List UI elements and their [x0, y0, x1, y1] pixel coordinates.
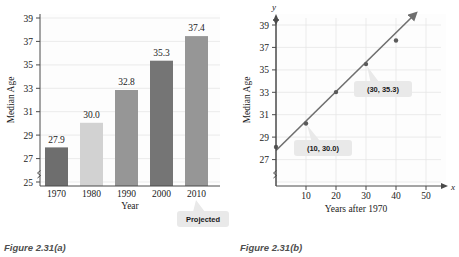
y-tick-label: 37 — [260, 43, 270, 53]
x-ticks — [306, 186, 426, 190]
x-axis-title: Years after 1970 — [325, 204, 388, 214]
y-tick-label: 39 — [260, 21, 270, 31]
bar-value-label: 35.3 — [153, 48, 170, 58]
figure-b-caption: Figure 2.31(b) — [240, 242, 302, 253]
bar-value-label: 32.8 — [118, 77, 135, 87]
bar-value-label: 27.9 — [48, 135, 65, 145]
x-axis-title: Year — [121, 201, 139, 211]
y-axis-title: Median Age — [6, 77, 16, 124]
scatter-chart-svg: y x 39 37 35 33 31 29 27 10 20 30 — [236, 0, 459, 232]
bar-value-label: 30.0 — [83, 110, 100, 120]
projected-callout: Projected — [177, 200, 229, 227]
bar-chart-svg: 27.9 30.0 32.8 35.3 37.4 39 37 35 33 31 … — [0, 0, 236, 232]
data-point — [364, 62, 368, 66]
bar-2010 — [185, 36, 208, 186]
y-tick-label: 27 — [24, 154, 34, 164]
x-tick-label: 2010 — [187, 189, 206, 199]
callout-label: (10, 30.0) — [307, 144, 340, 153]
figure-2-31-b: y x 39 37 35 33 31 29 27 10 20 30 — [236, 0, 459, 232]
y-tick-label: 39 — [24, 14, 34, 24]
bar-2000 — [150, 61, 173, 186]
y-ticks — [36, 18, 40, 182]
x-axis-arrow — [441, 183, 448, 189]
y-tick-label: 29 — [260, 133, 270, 143]
figure-2-31-a: 27.9 30.0 32.8 35.3 37.4 39 37 35 33 31 … — [0, 0, 236, 232]
x-tick-label: 30 — [361, 191, 371, 201]
data-point — [394, 38, 398, 42]
x-tick-label: 1980 — [82, 189, 101, 199]
x-tick-label: 1970 — [47, 189, 66, 199]
bar-value-label: 37.4 — [188, 23, 205, 33]
callout-label: (30, 35.3) — [367, 85, 400, 94]
y-tick-label: 33 — [24, 84, 34, 94]
projected-callout-label: Projected — [186, 215, 221, 224]
x-tick-label: 40 — [391, 191, 401, 201]
x-tick-label: 2000 — [152, 189, 171, 199]
y-ticks — [272, 25, 276, 160]
y-axis-name: y — [271, 2, 276, 12]
x-tick-label: 20 — [331, 191, 341, 201]
bar-1980 — [80, 123, 103, 186]
data-point — [334, 90, 338, 94]
data-point — [304, 121, 308, 125]
y-tick-label: 27 — [260, 155, 270, 165]
figure-a-caption: Figure 2.31(a) — [4, 242, 66, 253]
bar-1990 — [115, 90, 138, 186]
x-tick-label: 1990 — [117, 189, 136, 199]
y-axis-title: Median Age — [242, 77, 252, 124]
plot-background — [276, 14, 446, 182]
y-tick-label: 37 — [24, 37, 34, 47]
x-tick-label: 10 — [301, 191, 311, 201]
y-tick-label: 29 — [24, 131, 34, 141]
x-tick-label: 50 — [421, 191, 431, 201]
x-axis-name: x — [450, 182, 455, 192]
y-tick-label: 31 — [260, 110, 270, 120]
y-tick-label: 35 — [24, 60, 34, 70]
y-tick-label: 35 — [260, 65, 270, 75]
y-tick-label: 25 — [24, 178, 34, 188]
bar-1970 — [45, 147, 68, 186]
y-tick-label: 33 — [260, 88, 270, 98]
y-tick-label: 31 — [24, 107, 34, 117]
